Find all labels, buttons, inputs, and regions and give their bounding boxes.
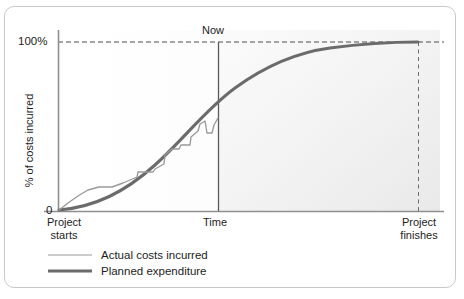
y-axis-tick-100-percent: 100% [18,35,47,48]
project-starts-label: Project starts [36,216,92,242]
project-starts-line-1: Project [36,216,92,229]
legend-swatch-planned-icon [48,266,92,276]
project-finishes-label: Project finishes [390,216,448,242]
now-annotation-label: Now [202,24,224,37]
plot-area-background-left [58,30,218,211]
legend-item-actual: Actual costs incurred [48,247,208,263]
legend-item-planned: Planned expenditure [48,263,208,279]
project-starts-line-2: starts [36,229,92,242]
y-axis-title: % of costs incurred [23,81,36,201]
chart-legend: Actual costs incurred Planned expenditur… [48,247,208,279]
legend-swatch-actual-icon [48,250,92,260]
legend-label-planned: Planned expenditure [101,265,207,277]
legend-label-actual: Actual costs incurred [101,249,208,261]
project-finishes-line-1: Project [390,216,448,229]
project-finishes-line-2: finishes [390,229,448,242]
plot-area-background-right [218,30,440,211]
x-axis-title: Time [203,216,227,229]
